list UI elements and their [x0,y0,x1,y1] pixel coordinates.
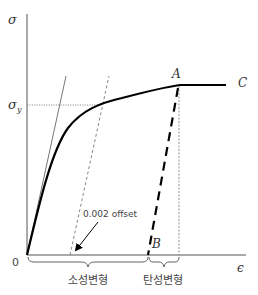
plastic-deformation-label: 소성변형 [68,274,108,287]
stress-strain-curve [27,85,226,255]
y-axis-label: σ [8,12,18,27]
plastic-deformation-brace [28,257,148,267]
point-c-label: C [238,76,247,90]
point-a-label: A [171,67,181,81]
elastic-deformation-label: 탄성변형 [143,274,183,287]
point-b-label: B [151,237,161,251]
x-axis-label: ϵ [237,261,244,275]
origin-label: 0 [12,256,19,269]
offset-annotation: 0.002 offset [83,209,138,219]
yield-stress-subscript: y [16,105,22,114]
yield-stress-label: σy [8,97,22,114]
unloading-line [148,88,178,255]
elastic-deformation-brace [149,257,179,267]
stress-strain-diagram: σ σy 0 ϵ A C B 0.002 offset 소성변형 탄성변형 [0,0,258,295]
offset-arrow [76,222,98,250]
